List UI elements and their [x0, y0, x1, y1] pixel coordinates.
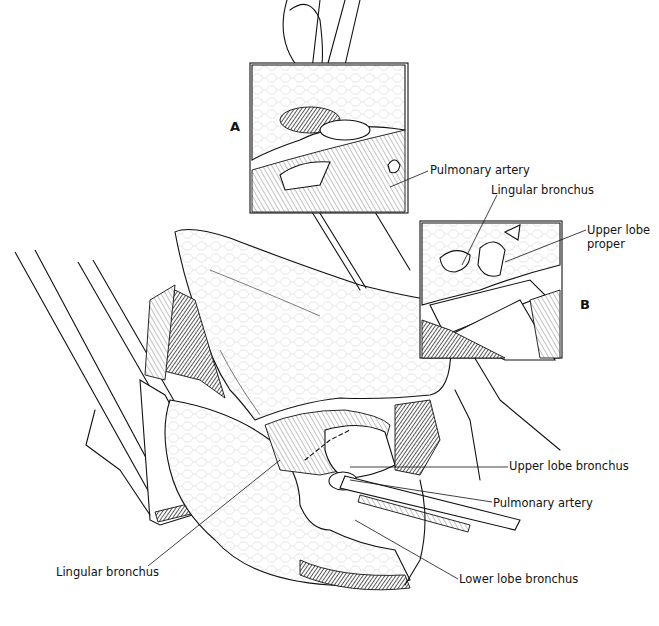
label-main-lingular-bronchus: Lingular bronchus: [56, 566, 159, 579]
inset-b: [420, 221, 562, 360]
label-upper-lobe-proper-1: Upper lobe: [587, 224, 650, 237]
surgical-illustration: [0, 0, 659, 626]
label-upper-lobe-bronchus: Upper lobe bronchus: [509, 460, 629, 473]
label-lower-lobe-bronchus: Lower lobe bronchus: [459, 573, 578, 586]
inset-a-letter: A: [230, 119, 240, 134]
inset-a: [250, 63, 408, 213]
label-inset-b-lingular-bronchus: Lingular bronchus: [491, 184, 594, 197]
label-upper-lobe-proper-2: proper: [587, 238, 625, 251]
label-inset-a-pulmonary-artery: Pulmonary artery: [430, 164, 530, 177]
label-main-pulmonary-artery: Pulmonary artery: [493, 497, 593, 510]
inset-b-letter: B: [580, 297, 590, 312]
